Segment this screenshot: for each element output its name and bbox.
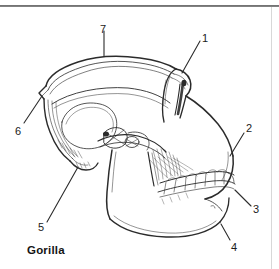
figure-label-7: 7: [100, 24, 106, 35]
figure-caption: Gorilla: [27, 244, 65, 256]
figure-label-3: 3: [253, 204, 259, 215]
figure-label-2: 2: [246, 123, 252, 134]
figure-label-5: 5: [38, 222, 44, 233]
figure-page: 1 2 3 4 5 6 7 Gorilla: [0, 0, 279, 269]
figure-label-1: 1: [202, 33, 208, 44]
figure-label-6: 6: [15, 126, 21, 137]
figure-label-4: 4: [231, 242, 237, 253]
